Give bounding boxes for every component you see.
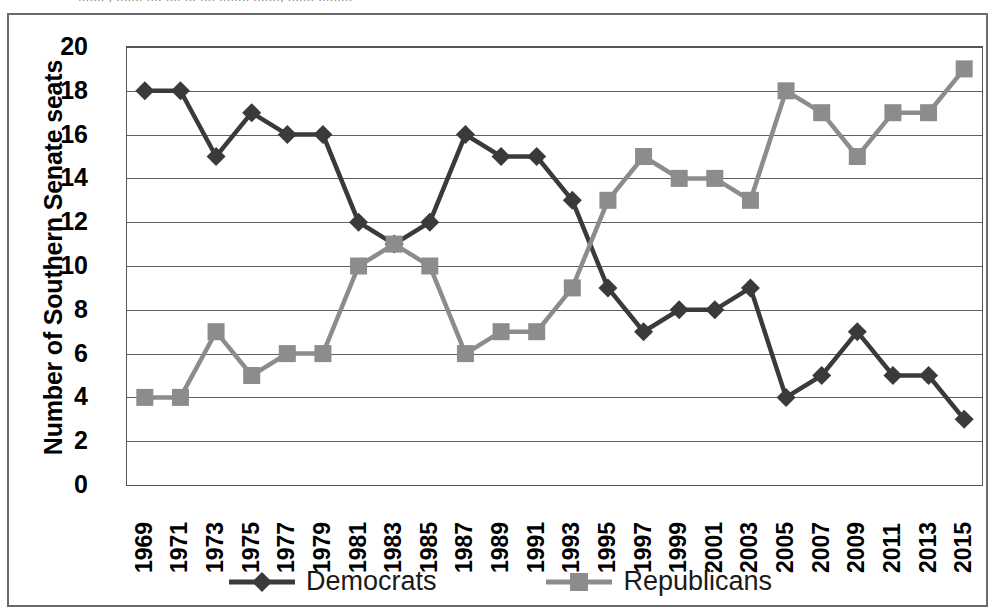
y-tick-label-8: 8: [18, 294, 88, 323]
x-tick-label-1971: 1971: [165, 493, 193, 573]
x-tick-label-2015: 2015: [949, 493, 977, 573]
series-democrats: [135, 81, 973, 429]
x-tick-label-2009: 2009: [842, 493, 870, 573]
data-point-democrats-1971: [171, 81, 190, 100]
chart-legend: DemocratsRepublicans: [9, 566, 990, 597]
data-point-republicans-1995: [599, 192, 616, 209]
data-point-republicans-1981: [350, 258, 367, 275]
x-tick-label-1981: 1981: [344, 493, 372, 573]
data-point-republicans-1993: [564, 279, 581, 296]
data-point-republicans-2005: [778, 82, 795, 99]
legend-marker-square-icon: [544, 569, 614, 595]
x-tick-label-1975: 1975: [237, 493, 265, 573]
x-tick-label-1989: 1989: [486, 493, 514, 573]
scan-edge-text-sliver: ....... , ....... .... .... ... .... ...…: [0, 0, 995, 12]
data-point-democrats-1969: [135, 81, 154, 100]
legend-item-republicans[interactable]: Republicans: [544, 566, 772, 597]
y-tick-label-2: 2: [18, 426, 88, 455]
data-point-republicans-1983: [386, 236, 403, 253]
plot-area: [126, 46, 983, 486]
x-tick-label-2001: 2001: [700, 493, 728, 573]
x-tick-label-1993: 1993: [557, 493, 585, 573]
chart-frame: Number of Southern Senate seats 20181614…: [7, 13, 988, 607]
y-tick-label-18: 18: [18, 75, 88, 104]
data-point-republicans-1985: [421, 258, 438, 275]
series-layer: [127, 47, 982, 485]
data-point-republicans-1971: [172, 389, 189, 406]
x-tick-label-2007: 2007: [807, 493, 835, 573]
y-tick-label-16: 16: [18, 119, 88, 148]
x-tick-label-2011: 2011: [878, 493, 906, 573]
data-point-republicans-1975: [243, 367, 260, 384]
data-point-republicans-1977: [279, 345, 296, 362]
legend-marker-diamond-icon: [227, 569, 297, 595]
y-tick-label-4: 4: [18, 382, 88, 411]
x-tick-label-2005: 2005: [771, 493, 799, 573]
x-tick-label-1987: 1987: [450, 493, 478, 573]
data-point-republicans-2003: [742, 192, 759, 209]
data-point-republicans-1987: [457, 345, 474, 362]
data-point-democrats-1979: [313, 125, 332, 144]
x-tick-label-2003: 2003: [735, 493, 763, 573]
y-tick-label-12: 12: [18, 207, 88, 236]
data-point-republicans-1991: [528, 323, 545, 340]
data-point-republicans-2011: [884, 104, 901, 121]
x-tick-label-1979: 1979: [308, 493, 336, 573]
y-tick-label-0: 0: [18, 470, 88, 499]
scan-edge-text: ....... , ....... .... .... ... .... ...…: [78, 0, 995, 4]
y-tick-label-6: 6: [18, 338, 88, 367]
x-tick-label-1983: 1983: [379, 493, 407, 573]
data-point-republicans-2001: [706, 170, 723, 187]
x-tick-label-1973: 1973: [201, 493, 229, 573]
data-point-republicans-1969: [136, 389, 153, 406]
x-tick-label-1969: 1969: [130, 493, 158, 573]
x-tick-label-1995: 1995: [593, 493, 621, 573]
y-tick-label-14: 14: [18, 163, 88, 192]
y-tick-label-10: 10: [18, 251, 88, 280]
x-tick-label-2013: 2013: [914, 493, 942, 573]
data-point-republicans-1989: [493, 323, 510, 340]
gridline-0: [127, 485, 982, 486]
series-republicans: [136, 60, 972, 406]
data-point-republicans-2009: [849, 148, 866, 165]
data-point-republicans-2015: [956, 60, 973, 77]
legend-label-republicans: Republicans: [623, 566, 772, 597]
legend-label-democrats: Democrats: [306, 566, 437, 597]
data-point-republicans-2013: [920, 104, 937, 121]
data-point-republicans-1973: [208, 323, 225, 340]
x-tick-label-1977: 1977: [272, 493, 300, 573]
data-point-republicans-1979: [314, 345, 331, 362]
data-point-republicans-1999: [671, 170, 688, 187]
legend-item-democrats[interactable]: Democrats: [227, 566, 437, 597]
y-tick-label-20: 20: [18, 32, 88, 61]
x-tick-label-1999: 1999: [664, 493, 692, 573]
data-point-republicans-2007: [813, 104, 830, 121]
x-tick-label-1991: 1991: [522, 493, 550, 573]
x-tick-label-1985: 1985: [415, 493, 443, 573]
data-point-republicans-1997: [635, 148, 652, 165]
x-tick-label-1997: 1997: [629, 493, 657, 573]
